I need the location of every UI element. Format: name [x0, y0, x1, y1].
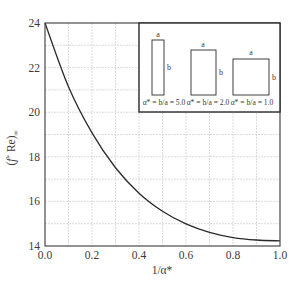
- x-axis-label: 1/α*: [152, 264, 173, 276]
- y-tick-label: 22: [29, 62, 41, 74]
- chart: 141618202224 0.00.20.40.60.81.0 1/α* (f*…: [0, 0, 297, 289]
- x-tick-label: 0.2: [85, 249, 100, 261]
- x-tick-label: 0.0: [38, 249, 53, 261]
- side-a-label: a: [249, 48, 253, 57]
- x-tick-label: 0.8: [226, 249, 241, 261]
- y-tick-label: 18: [29, 151, 41, 163]
- side-b-label: b: [219, 68, 223, 77]
- x-tick-label: 0.6: [179, 249, 194, 261]
- x-tick-label: 1.0: [273, 249, 288, 261]
- y-axis-label: (f* Re)∞: [5, 130, 20, 165]
- side-a-label: a: [156, 30, 160, 39]
- inset-label: α* = b/a = 2.0: [187, 98, 230, 107]
- inset-label: α* = b/a = 5.0: [143, 98, 186, 107]
- y-axis-ticks: 141618202224: [29, 17, 41, 252]
- inset-label: α* = b/a = 1.0: [231, 98, 274, 107]
- inset-diagram: a b α* = b/a = 5.0 a b α* = b/a = 2.0 a …: [139, 23, 280, 112]
- y-tick-label: 16: [29, 195, 41, 207]
- x-tick-label: 0.4: [132, 249, 147, 261]
- side-a-label: a: [201, 40, 205, 49]
- side-b-label: b: [167, 63, 171, 72]
- side-b-label: b: [272, 73, 276, 82]
- y-tick-label: 20: [29, 106, 41, 118]
- y-tick-label: 24: [29, 17, 41, 29]
- x-axis-ticks: 0.00.20.40.60.81.0: [38, 249, 288, 261]
